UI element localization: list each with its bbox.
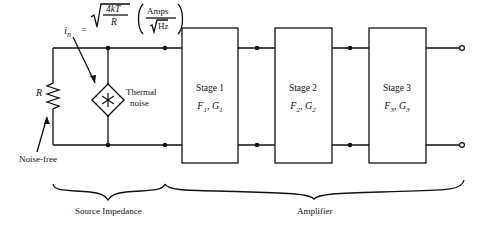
output-terminal-bottom	[460, 143, 465, 148]
formula-lhs: in	[64, 25, 71, 39]
unit-denominator: Hz	[158, 22, 169, 31]
noise-free-label: Noise-free	[19, 155, 57, 164]
thermal-noise-label-line2: noise	[130, 99, 149, 108]
stage-3-params: F3, G3	[369, 100, 425, 114]
stage-2-title: Stage 2	[275, 83, 331, 93]
amplifier-label: Amplifier	[297, 207, 333, 216]
resistor-label: R	[36, 88, 42, 98]
stage-2-box	[275, 28, 332, 163]
asterisk-icon	[102, 93, 114, 107]
stage-1-box	[182, 28, 238, 163]
stage-1-title: Stage 1	[182, 83, 238, 93]
stage-3-box	[369, 28, 426, 163]
output-terminal-top	[460, 46, 465, 51]
formula-denominator: R	[111, 18, 117, 28]
stage-3-title: Stage 3	[369, 83, 425, 93]
resistor-wire	[47, 48, 59, 145]
stage-1-params: F1, G1	[182, 100, 238, 114]
amplifier-brace	[165, 180, 464, 199]
source-impedance-label: Source Impedance	[75, 207, 142, 216]
formula-equals: =	[81, 25, 87, 35]
source-impedance-brace	[53, 184, 165, 200]
stage-2-params: F2, G2	[275, 100, 331, 114]
unit-numerator: Amps	[147, 7, 169, 16]
formula-numerator: 4kT	[106, 5, 120, 15]
thermal-noise-label-line1: Thermal	[126, 88, 157, 97]
